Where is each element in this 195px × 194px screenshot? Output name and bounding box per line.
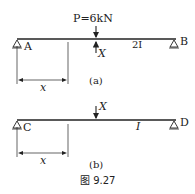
support-b-icon xyxy=(169,40,179,48)
dimension-label-x-a: x xyxy=(40,82,46,93)
load-label-p: P=6kN xyxy=(73,13,113,24)
stiffness-label-i: I xyxy=(136,121,140,132)
figure-caption: 图 9.27 xyxy=(80,176,115,186)
support-label-c: C xyxy=(23,122,31,133)
support-d-icon xyxy=(169,121,179,129)
force-label-x-b: X xyxy=(99,101,107,112)
support-label-a: A xyxy=(24,41,32,52)
support-label-b: B xyxy=(180,36,188,47)
panel-label-b: (b) xyxy=(89,160,103,170)
panel-label-a: (a) xyxy=(89,76,103,86)
dimension-label-x-b: x xyxy=(40,155,46,166)
stiffness-label-2i: 2I xyxy=(132,40,142,50)
support-label-d: D xyxy=(180,117,189,128)
force-label-x-a: X xyxy=(98,48,106,59)
